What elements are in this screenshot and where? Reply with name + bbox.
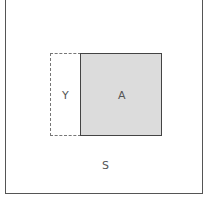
label-a: A (118, 89, 126, 102)
label-s: S (102, 159, 109, 172)
label-y: Y (62, 89, 69, 102)
